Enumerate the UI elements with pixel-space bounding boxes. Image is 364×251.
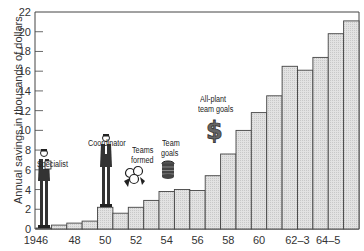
y-tick-label: 8 [25,144,31,156]
annotation-teams-formed-line1: Teams [132,145,153,155]
bar-1955 [174,190,189,230]
bar-1966 [344,21,359,229]
bar-chart: 0246810121416182022 19464850525456586062… [0,0,364,251]
x-axis: 19464850525456586062–364–5 [24,234,341,246]
x-tick-label: 54 [161,234,173,246]
stack-of-coins-icon [162,161,174,179]
annotation-coordinator: Coordinator [88,138,126,148]
x-tick-label: 62–3 [285,234,309,246]
y-axis-label: Annual savings in thousands of dollars [12,44,24,204]
bar-1963 [298,70,313,229]
bar-1960 [251,113,266,229]
bar-1964 [313,57,328,229]
bar-1949 [82,221,97,229]
y-tick-label: 4 [25,184,31,196]
x-tick-label: 56 [191,234,203,246]
bar-1946 [36,228,51,229]
bars [36,21,359,229]
bar-1965 [328,34,343,229]
bar-1952 [128,207,143,229]
x-tick-label: 48 [68,234,80,246]
annotation-all-plant-line2: team goals [198,104,233,114]
bar-1954 [159,192,174,230]
x-tick-label: 60 [253,234,265,246]
x-tick-label: 52 [130,234,142,246]
y-tick-label: 2 [25,203,31,215]
bar-1962 [282,66,297,229]
x-tick-label: 64–5 [316,234,340,246]
group-of-people-icon [124,167,145,188]
annotation-team-goals-line2: goals [161,148,178,158]
y-tick-label: 6 [25,164,31,176]
annotation-team-goals-line1: Team [162,138,180,148]
bar-1947 [51,225,66,229]
bar-1959 [236,130,251,229]
bar-1956 [190,191,205,230]
x-tick-label: 58 [222,234,234,246]
bar-1948 [67,223,82,229]
bar-1961 [267,96,282,229]
x-tick-label: 50 [99,234,111,246]
bar-1953 [144,200,159,229]
x-tick-label: 1946 [24,234,48,246]
annotation-all-plant-line1: All-plant [200,94,226,104]
bar-1951 [113,213,128,229]
annotation-specialist: Specialist [37,159,68,169]
annotation-teams-formed-line2: formed [131,155,153,165]
bar-1957 [205,176,220,229]
bar-1958 [221,154,236,229]
svg-text:$: $ [206,117,223,145]
dollar-sign-icon: $ [206,117,223,145]
bar-1950 [98,207,113,229]
